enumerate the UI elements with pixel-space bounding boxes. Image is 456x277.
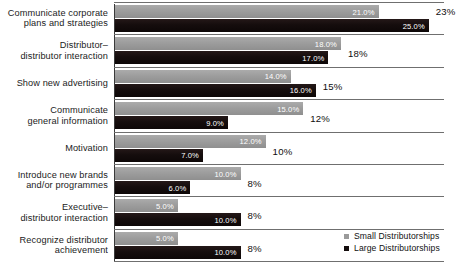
- bar-small-distributorships: 12.0%: [115, 135, 266, 148]
- category-label-line: Executive–: [0, 202, 108, 213]
- bar-small-distributorships: 15.0%: [115, 102, 303, 115]
- category-label-line: Introduce new brands: [0, 170, 108, 181]
- bar-value-label: 6.0%: [169, 183, 187, 192]
- bar-value-label: 18.0%: [315, 39, 337, 48]
- total-value-label: 23%: [436, 6, 456, 17]
- row-separator-line: [114, 132, 444, 133]
- total-value-label: 12%: [310, 113, 330, 124]
- legend-swatch-large-icon: [344, 246, 349, 251]
- category-label-line: and/or programmes: [0, 180, 108, 191]
- bar-value-label: 16.0%: [290, 86, 312, 95]
- bar-small-distributorships: 5.0%: [115, 232, 178, 245]
- row-separator-line: [114, 34, 444, 35]
- bar-value-label: 10.0%: [214, 169, 236, 178]
- category-label-line: general information: [0, 116, 108, 127]
- category-label: Communicategeneral information: [0, 105, 108, 126]
- bar-large-distributorships: 10.0%: [115, 246, 241, 259]
- category-label-line: achievement: [0, 245, 108, 256]
- total-value-label: 10%: [273, 146, 293, 157]
- category-label-line: Show new advertising: [0, 78, 108, 89]
- row-separator-line: [114, 196, 444, 197]
- category-label-line: Recognize distributor: [0, 235, 108, 246]
- bar-value-label: 9.0%: [206, 118, 224, 127]
- bar-small-distributorships: 5.0%: [115, 199, 178, 212]
- bar-large-distributorships: 10.0%: [115, 213, 241, 226]
- category-label: Distributor–distributor interaction: [0, 40, 108, 61]
- bar-value-label: 21.0%: [353, 7, 375, 16]
- bar-large-distributorships: 25.0%: [115, 19, 429, 32]
- category-label-line: Communicate corporate: [0, 8, 108, 19]
- bar-small-distributorships: 21.0%: [115, 5, 379, 18]
- total-value-label: 8%: [248, 210, 262, 221]
- bar-small-distributorships: 18.0%: [115, 37, 341, 50]
- bar-value-label: 7.0%: [181, 151, 199, 160]
- bar-value-label: 17.0%: [302, 53, 324, 62]
- bar-large-distributorships: 16.0%: [115, 84, 316, 97]
- bar-value-label: 10.0%: [214, 248, 236, 257]
- category-label-line: Distributor–: [0, 40, 108, 51]
- bar-value-label: 12.0%: [240, 137, 262, 146]
- category-label-line: plans and strategies: [0, 18, 108, 29]
- bar-value-label: 10.0%: [214, 215, 236, 224]
- total-value-label: 8%: [248, 178, 262, 189]
- category-label: Executive–distributor interaction: [0, 202, 108, 223]
- bar-small-distributorships: 10.0%: [115, 167, 241, 180]
- category-label: Introduce new brandsand/or programmes: [0, 170, 108, 191]
- total-value-label: 15%: [323, 81, 343, 92]
- category-label: Show new advertising: [0, 78, 108, 89]
- category-label: Recognize distributorachievement: [0, 235, 108, 256]
- category-label-line: distributor interaction: [0, 51, 108, 62]
- legend-item-large: Large Distributorships: [344, 242, 440, 254]
- bar-value-label: 15.0%: [277, 104, 299, 113]
- row-separator-line: [114, 261, 444, 262]
- bar-large-distributorships: 9.0%: [115, 116, 228, 129]
- total-value-label: 8%: [248, 243, 262, 254]
- legend-swatch-small-icon: [344, 234, 349, 239]
- bar-large-distributorships: 7.0%: [115, 149, 203, 162]
- bar-large-distributorships: 6.0%: [115, 181, 190, 194]
- category-label-line: Motivation: [0, 143, 108, 154]
- bar-value-label: 5.0%: [156, 234, 174, 243]
- row-separator-line: [114, 2, 444, 3]
- category-label-line: Communicate: [0, 105, 108, 116]
- chart-legend: Small Distributorships Large Distributor…: [344, 230, 440, 254]
- bar-value-label: 25.0%: [403, 21, 425, 30]
- total-value-label: 18%: [348, 48, 368, 59]
- bar-value-label: 5.0%: [156, 201, 174, 210]
- category-label: Communicate corporateplans and strategie…: [0, 8, 108, 29]
- legend-label-large: Large Distributorships: [354, 243, 440, 253]
- row-separator-line: [114, 164, 444, 165]
- bar-large-distributorships: 17.0%: [115, 51, 328, 64]
- bar-small-distributorships: 14.0%: [115, 70, 291, 83]
- bar-value-label: 14.0%: [265, 72, 287, 81]
- legend-label-small: Small Distributorships: [354, 231, 439, 241]
- category-label: Motivation: [0, 143, 108, 154]
- category-label-line: distributor interaction: [0, 213, 108, 224]
- row-separator-line: [114, 67, 444, 68]
- row-separator-line: [114, 99, 444, 100]
- legend-item-small: Small Distributorships: [344, 230, 440, 242]
